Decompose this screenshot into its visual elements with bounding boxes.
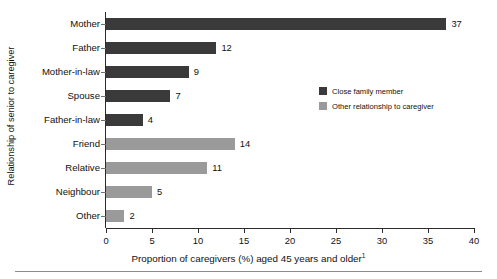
x-axis-tick-label: 40 (454, 235, 494, 246)
bar-value-label: 4 (148, 113, 153, 126)
y-axis-title-text: Relationship of senior to caregiver (6, 47, 16, 186)
bar-row: 2 (106, 204, 474, 228)
bar-value-label: 9 (194, 65, 199, 78)
bar-row: 37 (106, 12, 474, 36)
x-axis-tick (244, 228, 245, 233)
bar (106, 42, 216, 54)
legend-entry: Close family member (319, 85, 434, 97)
x-axis-tick (198, 228, 199, 233)
bar (106, 90, 170, 102)
bar (106, 210, 124, 222)
x-axis-tick (428, 228, 429, 233)
bar-value-label: 12 (221, 41, 231, 54)
x-axis-tick-label: 25 (316, 235, 356, 246)
category-label: Spouse (67, 84, 100, 108)
category-axis: MotherFatherMother-in-lawSpouseFather-in… (22, 12, 104, 228)
bar (106, 114, 143, 126)
legend-label: Other relationship to caregiver (332, 102, 434, 111)
x-axis-tick-label: 15 (224, 235, 264, 246)
x-axis-title: Proportion of caregivers (%) aged 45 yea… (0, 252, 497, 264)
legend-label: Close family member (332, 87, 403, 96)
category-label: Father (72, 36, 100, 60)
x-axis-tick (152, 228, 153, 233)
bar (106, 18, 446, 30)
category-label: Mother (70, 12, 100, 36)
category-label: Friend (73, 132, 100, 156)
x-axis-tick (106, 228, 107, 233)
category-label: Neighbour (56, 180, 100, 204)
x-axis-tick-label: 10 (178, 235, 218, 246)
bar-value-label: 5 (157, 185, 162, 198)
bar (106, 138, 235, 150)
bar (106, 66, 189, 78)
bar-value-label: 37 (451, 17, 461, 30)
legend-entry: Other relationship to caregiver (319, 100, 434, 112)
legend-swatch-icon (319, 87, 327, 95)
category-label: Other (76, 204, 100, 228)
chart-legend: Close family memberOther relationship to… (319, 85, 434, 115)
bar-row: 12 (106, 36, 474, 60)
x-axis-tick (290, 228, 291, 233)
x-axis-tick-label: 20 (270, 235, 310, 246)
x-axis-tick (474, 228, 475, 233)
bar-value-label: 11 (212, 161, 222, 174)
bar-row: 9 (106, 60, 474, 84)
x-axis-tick (336, 228, 337, 233)
footer-divider (15, 271, 482, 272)
x-axis-tick (382, 228, 383, 233)
x-axis-tick-label: 5 (132, 235, 172, 246)
bar-value-label: 2 (129, 209, 134, 222)
category-label: Mother-in-law (42, 60, 100, 84)
category-label: Father-in-law (44, 108, 100, 132)
legend-swatch-icon (319, 102, 327, 110)
x-axis-tick-label: 0 (86, 235, 126, 246)
y-axis-title: Relationship of senior to caregiver (0, 0, 22, 232)
bar-chart-figure: Relationship of senior to caregiver Moth… (0, 0, 497, 279)
x-axis-title-text: Proportion of caregivers (%) aged 45 yea… (131, 253, 361, 264)
bar-row: 11 (106, 156, 474, 180)
category-label: Relative (65, 156, 100, 180)
bar-row: 5 (106, 180, 474, 204)
x-axis-tick-label: 30 (362, 235, 402, 246)
bar-value-label: 7 (175, 89, 180, 102)
plot-area: 3712974141152 (106, 12, 474, 228)
bar (106, 186, 152, 198)
bar-row: 14 (106, 132, 474, 156)
x-axis-title-footnote-marker: 1 (362, 252, 366, 259)
bar (106, 162, 207, 174)
bar-value-label: 14 (240, 137, 250, 150)
x-axis-tick-label: 35 (408, 235, 448, 246)
